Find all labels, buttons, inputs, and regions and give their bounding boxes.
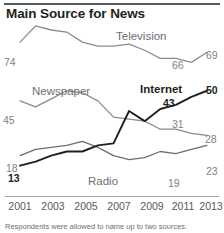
x-tick-2013: 2013 (199, 200, 222, 212)
value-label-radio-start: 18 (6, 162, 18, 174)
series-label-internet: Internet (140, 83, 182, 95)
value-label-television-mid: 66 (172, 59, 184, 71)
x-tick-2011: 2011 (172, 200, 195, 212)
page-title: Main Source for News (6, 6, 145, 21)
x-tick-2009: 2009 (140, 200, 163, 212)
header-rule (4, 3, 220, 5)
value-label-television-start: 74 (4, 56, 16, 68)
x-tick-2001: 2001 (8, 200, 31, 212)
value-label-newspaper-start: 45 (3, 114, 15, 126)
value-label-newspaper-end: 28 (205, 133, 217, 145)
value-label-newspaper-mid: 31 (172, 118, 184, 130)
value-label-radio-end: 23 (206, 165, 218, 177)
footnote: Respondents were allowed to name up to t… (5, 222, 221, 233)
x-tick-2003: 2003 (41, 200, 64, 212)
value-label-television-end: 69 (206, 49, 218, 61)
value-label-internet-end: 50 (206, 84, 218, 96)
value-label-radio-mid: 19 (168, 177, 180, 189)
series-label-newspaper: Newspaper (32, 85, 90, 97)
x-axis: 2001 2003 2005 2007 2009 2011 2013 (0, 200, 224, 214)
plot-area: Television Newspaper Internet Radio 74 6… (0, 24, 224, 196)
x-tick-2007: 2007 (107, 200, 130, 212)
x-axis-rule (5, 196, 219, 197)
series-line-television (20, 26, 207, 62)
chart-container: Main Source for News Television Newspape… (0, 0, 224, 233)
line-chart-svg (0, 24, 224, 196)
series-label-radio: Radio (88, 175, 118, 187)
x-tick-2005: 2005 (74, 200, 97, 212)
value-label-internet-mid: 43 (163, 97, 175, 109)
series-label-television: Television (116, 30, 167, 42)
